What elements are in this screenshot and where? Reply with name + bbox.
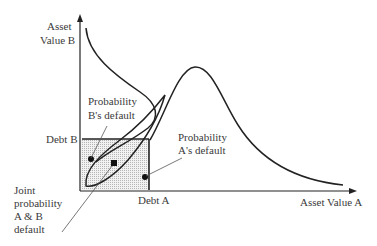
debt-b-label: Debt B: [46, 133, 77, 145]
y-axis-label-line2: Value B: [40, 34, 75, 46]
prob-b-label-line1: Probability: [88, 95, 137, 107]
x-axis-label: Asset Value A: [300, 196, 362, 208]
b-default-marker: [88, 156, 94, 162]
debt-a-label: Debt A: [138, 194, 170, 206]
asset-a-distribution-curve: [150, 67, 343, 185]
a-default-marker: [142, 174, 148, 180]
prob-a-label-line1: Probability: [178, 131, 227, 143]
x-axis-arrow-icon: [349, 188, 357, 194]
prob-a-label-line2: A's default: [178, 144, 226, 156]
y-axis-arrow-icon: [77, 14, 83, 22]
joint-label-line1: Joint: [14, 184, 35, 196]
joint-label-line2: probability: [14, 197, 63, 209]
joint-label-line3: A & B: [14, 210, 43, 222]
joint-label-line4: default: [14, 223, 45, 235]
joint-default-diagram: Asset Value B Asset Value A Debt B Debt …: [0, 0, 377, 246]
prob-b-label-line2: B's default: [88, 109, 135, 121]
prob-a-leader: [146, 158, 182, 176]
joint-default-marker: [111, 160, 117, 166]
y-axis-label-line1: Asset: [47, 20, 71, 32]
